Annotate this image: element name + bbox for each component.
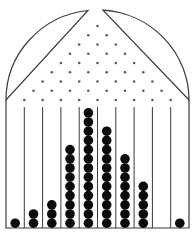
ball — [120, 209, 130, 219]
ball — [65, 200, 75, 210]
ball — [84, 163, 94, 173]
ball — [120, 163, 130, 173]
left-funnel-wedge — [6, 10, 88, 100]
ball — [65, 191, 75, 201]
ball — [102, 191, 112, 201]
ball — [65, 218, 75, 228]
ball — [84, 136, 94, 146]
peg — [51, 90, 54, 93]
peg — [41, 99, 44, 102]
ball — [84, 154, 94, 164]
peg — [133, 80, 136, 83]
bin-8-stack — [139, 182, 149, 228]
peg — [142, 90, 145, 93]
peg — [105, 34, 108, 37]
ball — [139, 182, 149, 192]
peg — [151, 80, 154, 83]
peg — [69, 53, 72, 56]
ball — [84, 200, 94, 210]
peg — [78, 62, 81, 65]
bin-2-stack — [29, 209, 39, 228]
peg — [96, 80, 99, 83]
peg — [133, 99, 136, 102]
ball — [29, 218, 39, 228]
ball — [84, 218, 94, 228]
peg — [133, 62, 136, 65]
ball — [139, 209, 149, 219]
peg — [115, 99, 118, 102]
bin-7-stack — [120, 154, 130, 228]
peg — [96, 43, 99, 46]
peg — [87, 71, 90, 74]
peg — [87, 53, 90, 56]
ball — [47, 200, 57, 210]
ball — [65, 145, 75, 155]
peg — [78, 99, 81, 102]
bin-3-stack — [47, 200, 57, 228]
ball — [65, 154, 75, 164]
peg — [160, 90, 163, 93]
peg — [105, 90, 108, 93]
ball — [120, 182, 130, 192]
peg — [169, 99, 172, 102]
ball — [120, 218, 130, 228]
peg — [124, 90, 127, 93]
ball — [65, 172, 75, 182]
ball — [84, 126, 94, 136]
galton-board-drawing — [0, 0, 196, 236]
ball — [65, 182, 75, 192]
peg — [69, 71, 72, 74]
peg — [41, 80, 44, 83]
ball — [120, 191, 130, 201]
bin-1-stack — [10, 218, 20, 228]
peg — [115, 62, 118, 65]
ball — [10, 218, 20, 228]
peg — [124, 71, 127, 74]
peg — [78, 43, 81, 46]
ball — [84, 182, 94, 192]
ball — [84, 108, 94, 118]
peg — [96, 62, 99, 65]
ball — [102, 163, 112, 173]
ball — [120, 200, 130, 210]
ball — [139, 191, 149, 201]
ball — [84, 117, 94, 127]
ball — [47, 218, 57, 228]
peg — [124, 53, 127, 56]
ball — [47, 209, 57, 219]
peg — [87, 90, 90, 93]
ball — [102, 172, 112, 182]
peg — [105, 71, 108, 74]
peg — [60, 80, 63, 83]
peg — [115, 43, 118, 46]
ball — [102, 154, 112, 164]
ball — [65, 209, 75, 219]
ball — [29, 209, 39, 219]
ball — [102, 126, 112, 136]
ball — [102, 145, 112, 155]
ball — [175, 218, 185, 228]
right-funnel-wedge — [103, 10, 189, 100]
peg — [23, 99, 26, 102]
peg — [69, 90, 72, 93]
peg — [142, 71, 145, 74]
peg — [51, 71, 54, 74]
ball — [139, 218, 149, 228]
bin-5-stack — [84, 108, 94, 228]
peg — [115, 80, 118, 83]
bin-4-stack — [65, 145, 75, 228]
peg — [32, 90, 35, 93]
ball — [102, 182, 112, 192]
ball — [102, 200, 112, 210]
bin-6-stack — [102, 126, 112, 228]
ball — [102, 218, 112, 228]
ball — [102, 136, 112, 146]
peg — [151, 99, 154, 102]
peg — [96, 25, 99, 28]
peg — [60, 62, 63, 65]
ball — [120, 172, 130, 182]
peg — [78, 80, 81, 83]
ball — [84, 191, 94, 201]
ball — [120, 154, 130, 164]
galton-board — [0, 0, 196, 236]
